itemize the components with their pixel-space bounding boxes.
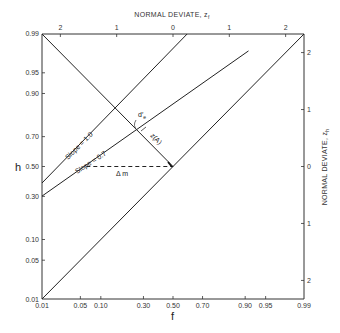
y-tick-label: 0.90 <box>25 90 39 97</box>
top-tick-label: 2 <box>58 24 62 31</box>
y-tick-label: 0.99 <box>25 30 39 37</box>
top-tick-label: 1 <box>227 24 231 31</box>
y-tick-label: 0.95 <box>25 69 39 76</box>
series-line <box>42 51 249 196</box>
right-tick-label: 1 <box>307 106 311 113</box>
right-tick-label: 2 <box>307 49 311 56</box>
right-tick-label: 2 <box>307 277 311 284</box>
delta-m-label: Δ m <box>116 170 128 177</box>
top-axis-title: NORMAL DEVIATE, zf <box>134 11 210 20</box>
za-tick-start <box>141 127 146 131</box>
slope-1-label: Slope = 1.0 <box>64 131 95 162</box>
right-tick-label: 1 <box>307 220 311 227</box>
x-axis-ticks: 0.010.050.100.300.500.700.900.950.99 <box>35 296 311 309</box>
y-tick-label: 0.50 <box>25 163 39 170</box>
top-tick-label: 0 <box>171 24 175 31</box>
right-tick-label: 0 <box>307 163 311 170</box>
x-tick-label: 0.50 <box>166 302 180 309</box>
series-line <box>42 34 173 167</box>
x-tick-label: 0.90 <box>238 302 252 309</box>
top-tick-label: 1 <box>115 24 119 31</box>
x-tick-label: 0.05 <box>74 302 88 309</box>
y-tick-label: 0.30 <box>25 193 39 200</box>
x-tick-label: 0.10 <box>94 302 108 309</box>
roc-chart: 0.010.050.100.300.500.700.900.950.99 0.0… <box>0 0 340 333</box>
y-tick-label: 0.10 <box>25 236 39 243</box>
x-tick-label: 0.30 <box>137 302 151 309</box>
x-axis-name: f <box>171 310 175 322</box>
slope-07-label: Slope = 0.7 <box>74 150 108 176</box>
y-tick-label: 0.70 <box>25 133 39 140</box>
top-axis-ticks: 21012 <box>58 24 287 37</box>
top-tick-label: 2 <box>284 24 288 31</box>
right-axis-ticks: 21012 <box>301 49 311 284</box>
right-axis-title: NORMAL DEVIATE, zh <box>321 129 330 206</box>
x-tick-label: 0.99 <box>297 302 311 309</box>
x-tick-label: 0.70 <box>196 302 210 309</box>
y-tick-label: 0.05 <box>25 257 39 264</box>
y-tick-label: 0.01 <box>25 296 39 303</box>
x-tick-label: 0.95 <box>259 302 273 309</box>
x-tick-label: 0.01 <box>35 302 49 309</box>
de-label: d′e <box>138 111 146 120</box>
y-axis-name: h <box>15 161 21 173</box>
